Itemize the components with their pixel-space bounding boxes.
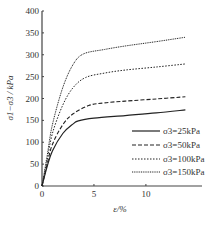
y-tick-label: 300 — [26, 50, 40, 60]
y-tick-label: 100 — [26, 137, 40, 147]
y-axis-label: σ1−σ3 / kPa — [5, 75, 15, 120]
y-tick-label: 150 — [26, 115, 40, 125]
legend-label: σ3=50kPa — [163, 140, 200, 150]
y-tick-label: 250 — [26, 72, 40, 82]
y-tick-label: 0 — [35, 181, 40, 191]
legend-label: σ3=100kPa — [163, 154, 204, 164]
x-tick-label: 5 — [92, 189, 97, 199]
stress-strain-chart: 0501001502002503003504000510 σ3=25kPaσ3=… — [0, 0, 224, 225]
x-tick-label: 0 — [40, 189, 45, 199]
legend-label: σ3=25kPa — [163, 126, 200, 136]
y-tick-label: 200 — [26, 94, 40, 104]
legend-label: σ3=150kPa — [163, 167, 204, 177]
y-tick-label: 350 — [26, 28, 40, 38]
y-tick-label: 400 — [26, 6, 40, 16]
x-tick-label: 10 — [141, 189, 151, 199]
legend: σ3=25kPaσ3=50kPaσ3=100kPaσ3=150kPa — [132, 126, 204, 177]
x-axis-label: ε/% — [113, 204, 127, 214]
y-tick-label: 50 — [30, 159, 40, 169]
